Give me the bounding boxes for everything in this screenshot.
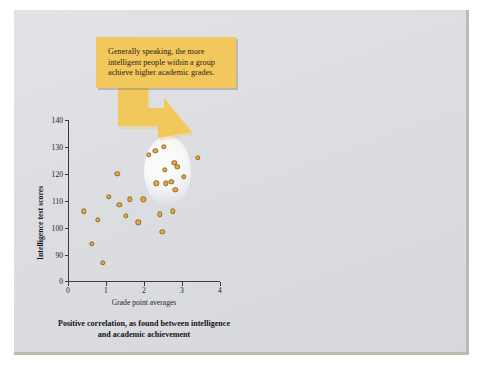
callout-box-left: Generally speaking, the more intelligent… [96,37,236,88]
x-tick-label-left: 3 [180,286,184,295]
data-point [160,229,165,234]
data-point [161,144,166,149]
chart-panel-left: Generally speaking, the more intelligent… [14,10,242,352]
data-point [157,211,162,216]
y-tick-label-left: 120 [52,169,63,178]
highlight-glow-left [144,136,191,206]
caption-left: Positive correlation, as found between i… [52,318,236,341]
y-tick-left [65,228,69,229]
data-point [100,260,105,265]
data-point [115,171,120,176]
y-tick-left [65,120,69,121]
y-tick-label-left: 100 [52,223,63,232]
x-tick-left [220,282,221,286]
y-tick-label-left: 0 [59,277,63,286]
x-tick-left [182,282,183,286]
data-point [141,197,146,202]
data-point [127,197,132,202]
chart-panel-right: Generally speaking, the immune systems o… [242,10,469,352]
y-tick-left [65,201,69,202]
y-tick-left [65,147,69,148]
y-axis-title-left: Intelligence test scores [36,186,45,260]
y-tick-label-left: 110 [52,196,63,205]
data-point [172,187,177,192]
figure-panel: Generally speaking, the more intelligent… [14,10,469,355]
data-point [117,202,122,207]
x-tick-label-left: 1 [104,286,108,295]
callout-arrow-left-icon [112,82,198,144]
y-tick-left [65,255,69,256]
x-tick-left [106,282,107,286]
x-tick-label-left: 2 [142,286,146,295]
data-point [81,209,86,214]
x-tick-left [144,282,145,286]
y-tick-label-left: 140 [52,116,63,125]
y-tick-label-left: 90 [55,250,63,259]
data-point [95,217,100,222]
data-point [181,174,186,179]
data-point [106,194,111,199]
data-point [153,148,158,153]
callout-text-left: Generally speaking, the more intelligent… [108,47,227,79]
data-point [162,167,167,172]
x-tick-label-left: 0 [66,286,70,295]
data-point [170,209,175,214]
data-point [175,164,180,169]
y-axis-left [68,120,69,282]
scatter-plot-left: 09010011012013014001234 [68,120,220,282]
x-tick-left [68,282,69,286]
data-point [136,220,141,225]
data-point [153,181,158,186]
x-tick-label-left: 4 [218,286,222,295]
data-point [195,155,200,160]
data-point [146,152,151,157]
data-point [89,241,94,246]
data-point [169,179,174,184]
x-axis-title-left: Grade point averages [68,298,220,308]
y-tick-label-left: 130 [52,142,63,151]
data-point [123,213,128,218]
y-tick-left [65,174,69,175]
